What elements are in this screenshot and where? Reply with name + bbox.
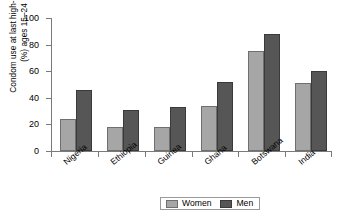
y-axis-tick-label: 0	[15, 147, 39, 156]
legend-item-women: Women	[166, 199, 211, 208]
bar-group	[295, 18, 327, 151]
plot-area: 020406080100	[51, 18, 332, 152]
x-axis-tick	[285, 152, 286, 157]
bar-men-nigeria	[76, 90, 92, 151]
x-axis-tick	[192, 152, 193, 157]
x-axis-tick	[145, 152, 146, 157]
bar-group	[248, 18, 280, 151]
y-axis-tick-label: 60	[15, 67, 39, 76]
bar-women-india	[295, 83, 311, 151]
y-axis-tick	[46, 98, 51, 99]
bar-group	[107, 18, 139, 151]
bar-group	[154, 18, 186, 151]
y-axis-tick-label: 80	[15, 41, 39, 50]
legend-swatch-men-icon	[220, 200, 232, 208]
legend: Women Men	[160, 197, 260, 210]
legend-label-women: Women	[182, 199, 211, 208]
y-axis-tick-label: 100	[15, 14, 39, 23]
y-axis-tick-label: 20	[15, 120, 39, 129]
bar-women-botswana	[248, 51, 264, 151]
y-axis-tick	[46, 124, 51, 125]
bar-men-botswana	[264, 34, 280, 151]
bar-chart: Condom use at last high-risk sex (%) age…	[0, 0, 352, 218]
bar-men-ghana	[217, 82, 233, 151]
y-axis-tick-label: 40	[15, 94, 39, 103]
bar-group	[201, 18, 233, 151]
bar-men-india	[311, 71, 327, 151]
y-axis-tick	[46, 18, 51, 19]
legend-item-men: Men	[220, 199, 253, 208]
y-axis-tick	[46, 71, 51, 72]
y-axis-tick	[46, 45, 51, 46]
legend-label-men: Men	[236, 199, 253, 208]
x-axis-tick	[238, 152, 239, 157]
bar-women-ghana	[201, 106, 217, 151]
bar-women-nigeria	[60, 119, 76, 151]
bar-group	[60, 18, 92, 151]
y-axis-line	[51, 18, 52, 152]
x-axis-tick	[98, 152, 99, 157]
x-axis-tick	[331, 152, 332, 157]
legend-swatch-women-icon	[166, 200, 178, 208]
x-axis-tick	[51, 152, 52, 157]
